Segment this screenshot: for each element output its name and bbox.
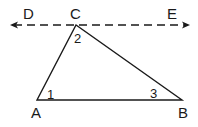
label-e: E <box>167 5 177 22</box>
angle-label-2: 2 <box>74 31 81 46</box>
angle-label-1: 1 <box>47 87 54 102</box>
label-d: D <box>23 5 34 22</box>
label-c: C <box>70 5 81 22</box>
angle-label-3: 3 <box>150 86 157 101</box>
label-b: B <box>178 104 188 121</box>
label-a: A <box>31 104 41 121</box>
line-de <box>10 22 190 29</box>
triangle-abc <box>37 25 182 100</box>
triangle-diagram: D C E A B 1 2 3 <box>0 0 198 127</box>
